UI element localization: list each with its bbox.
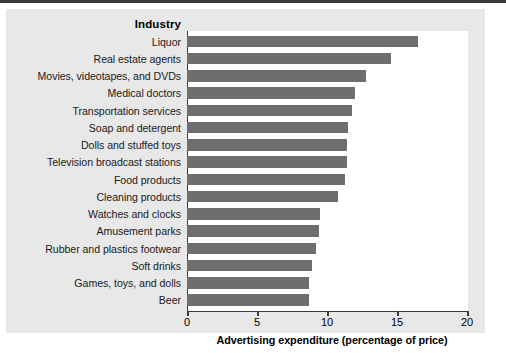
bar-category-label: Cleaning products: [16, 191, 181, 203]
x-tick-label: 0: [167, 316, 207, 328]
bar-category-label: Transportation services: [16, 105, 181, 117]
bar-row: Games, toys, and dolls: [6, 275, 485, 292]
bar-track: [187, 137, 467, 154]
bar-track: [187, 68, 467, 85]
bar-track: [187, 257, 467, 274]
bar: [187, 277, 309, 289]
bar: [187, 36, 418, 48]
bar-row: Soft drinks: [6, 257, 485, 274]
bar-track: [187, 119, 467, 136]
bar-category-label: Soap and detergent: [16, 122, 181, 134]
bar-row: Watches and clocks: [6, 206, 485, 223]
top-rule-divider: [0, 0, 506, 3]
x-tick-label: 5: [237, 316, 277, 328]
bar-track: [187, 33, 467, 50]
bar: [187, 174, 345, 186]
bar-track: [187, 154, 467, 171]
bar-row: Beer: [6, 292, 485, 309]
bar: [187, 260, 312, 272]
bar-row: Movies, videotapes, and DVDs: [6, 68, 485, 85]
bar: [187, 156, 347, 168]
bar-category-label: Dolls and stuffed toys: [16, 139, 181, 151]
x-tick-label: 20: [447, 316, 487, 328]
chart-panel: Industry LiquorReal estate agentsMovies,…: [6, 9, 485, 333]
bar: [187, 139, 347, 151]
bar: [187, 70, 366, 82]
bar-category-label: Medical doctors: [16, 87, 181, 99]
bar: [187, 191, 338, 203]
bar-row: Dolls and stuffed toys: [6, 137, 485, 154]
bar: [187, 208, 320, 220]
bar: [187, 243, 316, 255]
bar-category-label: Rubber and plastics footwear: [16, 243, 181, 255]
bar-category-label: Watches and clocks: [16, 208, 181, 220]
bar-category-label: Real estate agents: [16, 53, 181, 65]
bar-row: Medical doctors: [6, 85, 485, 102]
bar-row: Food products: [6, 171, 485, 188]
bar: [187, 53, 391, 65]
bar-row: Soap and detergent: [6, 119, 485, 136]
x-axis-ticks: 05101520: [187, 311, 467, 317]
bar-track: [187, 240, 467, 257]
bar-category-label: Movies, videotapes, and DVDs: [16, 70, 181, 82]
bar-row: Amusement parks: [6, 223, 485, 240]
bar-track: [187, 102, 467, 119]
bar: [187, 105, 352, 117]
category-column-header: Industry: [26, 18, 181, 30]
figure-container: Industry LiquorReal estate agentsMovies,…: [0, 0, 506, 353]
bar-track: [187, 188, 467, 205]
bar: [187, 87, 355, 99]
bar-category-label: Amusement parks: [16, 225, 181, 237]
bar-row: Cleaning products: [6, 188, 485, 205]
bar-category-label: Soft drinks: [16, 260, 181, 272]
bar-track: [187, 171, 467, 188]
bar-track: [187, 50, 467, 67]
bar-track: [187, 206, 467, 223]
bar-category-label: Food products: [16, 174, 181, 186]
bar-category-label: Television broadcast stations: [16, 156, 181, 168]
bar-category-label: Games, toys, and dolls: [16, 277, 181, 289]
x-tick-label: 15: [377, 316, 417, 328]
bar-track: [187, 223, 467, 240]
bar-row: Real estate agents: [6, 50, 485, 67]
bar-category-label: Liquor: [16, 36, 181, 48]
bar-track: [187, 85, 467, 102]
bar-row: Transportation services: [6, 102, 485, 119]
bar: [187, 294, 309, 306]
bar-row: Rubber and plastics footwear: [6, 240, 485, 257]
bar-row: Television broadcast stations: [6, 154, 485, 171]
x-tick-label: 10: [307, 316, 347, 328]
bar-rows: LiquorReal estate agentsMovies, videotap…: [6, 33, 485, 309]
bar: [187, 122, 348, 134]
bar: [187, 225, 319, 237]
bar-category-label: Beer: [16, 294, 181, 306]
bar-track: [187, 275, 467, 292]
bar-row: Liquor: [6, 33, 485, 50]
bar-track: [187, 292, 467, 309]
x-axis-title: Advertising expenditure (percentage of p…: [187, 334, 477, 346]
